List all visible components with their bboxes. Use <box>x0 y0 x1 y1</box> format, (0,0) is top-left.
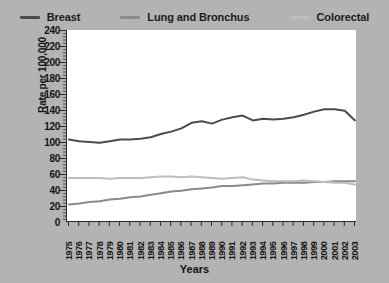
x-tick-label: 1993 <box>248 224 258 260</box>
chart-container: Breast Lung and Bronchus Colorectal Rate… <box>0 0 389 283</box>
x-tick-label: 1990 <box>217 224 227 260</box>
line-swatch-icon <box>120 16 140 19</box>
y-axis-tick-labels: 240220200180160140120100806040200 <box>16 30 60 222</box>
y-tick-label: 160 <box>16 89 60 100</box>
x-tick-label: 1999 <box>309 224 319 260</box>
y-tick-label: 20 <box>16 201 60 212</box>
x-tick-label: 1991 <box>227 224 237 260</box>
x-tick-label: 1976 <box>74 224 84 260</box>
x-tick-label: 1979 <box>105 224 115 260</box>
x-tick-label: 1983 <box>146 224 156 260</box>
y-tick-label: 80 <box>16 153 60 164</box>
chart-legend: Breast Lung and Bronchus Colorectal <box>0 9 389 25</box>
x-tick-label: 1981 <box>125 224 135 260</box>
x-axis-title: Years <box>0 263 389 275</box>
x-tick-label: 1980 <box>115 224 125 260</box>
y-tick-label: 100 <box>16 137 60 148</box>
legend-label-lung-and-bronchus: Lung and Bronchus <box>147 11 249 23</box>
x-axis-tick-labels: 1975197619771978197919801981198219831984… <box>66 224 356 262</box>
x-tick-label: 2003 <box>350 224 360 260</box>
x-tick-label: 1992 <box>238 224 248 260</box>
y-tick-label: 200 <box>16 57 60 68</box>
plot-area <box>66 30 356 222</box>
y-tick-label: 120 <box>16 121 60 132</box>
y-tick-label: 40 <box>16 185 60 196</box>
y-tick-label: 180 <box>16 73 60 84</box>
x-tick-label: 2002 <box>340 224 350 260</box>
x-tick-label: 1988 <box>197 224 207 260</box>
x-tick-label: 1977 <box>84 224 94 260</box>
x-tick-label: 1989 <box>207 224 217 260</box>
x-tick-label: 1994 <box>258 224 268 260</box>
x-tick-label: 1978 <box>95 224 105 260</box>
line-swatch-icon <box>290 16 310 19</box>
series-lines <box>67 30 357 222</box>
x-tick-label: 1975 <box>64 224 74 260</box>
x-tick-label: 1985 <box>166 224 176 260</box>
legend-label-colorectal: Colorectal <box>317 11 370 23</box>
x-tick-label: 1998 <box>299 224 309 260</box>
y-tick-label: 60 <box>16 169 60 180</box>
x-tick-label: 1982 <box>136 224 146 260</box>
x-tick-label: 1986 <box>176 224 186 260</box>
legend-label-breast: Breast <box>47 11 81 23</box>
y-tick-label: 240 <box>16 25 60 36</box>
x-tick-label: 1984 <box>156 224 166 260</box>
y-tick-label: 220 <box>16 41 60 52</box>
x-tick-label: 1995 <box>268 224 278 260</box>
x-tick-label: 1996 <box>279 224 289 260</box>
x-tick-label: 1987 <box>187 224 197 260</box>
y-tick-label: 0 <box>16 217 60 228</box>
legend-item-lung-and-bronchus: Lung and Bronchus <box>120 11 249 23</box>
y-tick-label: 140 <box>16 105 60 116</box>
legend-item-colorectal: Colorectal <box>290 11 370 23</box>
x-tick-label: 2000 <box>319 224 329 260</box>
x-tick-label: 2001 <box>330 224 340 260</box>
x-tick-label: 1997 <box>289 224 299 260</box>
